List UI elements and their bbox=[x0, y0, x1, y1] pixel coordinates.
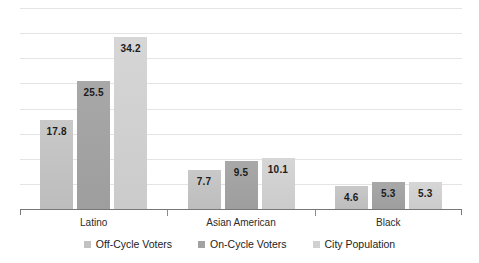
chart-legend: Off-Cycle Voters On-Cycle Voters City Po… bbox=[0, 238, 479, 250]
x-axis-right-cap bbox=[461, 209, 462, 215]
x-axis-left-cap bbox=[20, 209, 21, 215]
bar-value-label: 5.3 bbox=[372, 188, 405, 199]
legend-item-off-cycle-voters[interactable]: Off-Cycle Voters bbox=[84, 238, 172, 250]
plot-area: 17.825.534.27.79.510.14.65.35.3 bbox=[20, 8, 462, 209]
x-axis-tick bbox=[315, 210, 316, 216]
bar-value-label: 4.6 bbox=[335, 192, 368, 203]
legend-label-off-cycle: Off-Cycle Voters bbox=[96, 238, 172, 250]
bar-value-label: 7.7 bbox=[188, 176, 221, 187]
legend-swatch-off-cycle-icon bbox=[84, 241, 91, 248]
x-axis-tick bbox=[167, 210, 168, 216]
bar[interactable] bbox=[114, 37, 147, 209]
bar-group-latino: 17.825.534.2 bbox=[40, 8, 147, 209]
bar-group-black: 4.65.35.3 bbox=[335, 8, 442, 209]
legend-item-on-cycle-voters[interactable]: On-Cycle Voters bbox=[198, 238, 286, 250]
bar-value-label: 34.2 bbox=[114, 43, 147, 54]
bar-chart: 17.825.534.27.79.510.14.65.35.3 LatinoAs… bbox=[0, 0, 479, 263]
legend-label-city-population: City Population bbox=[325, 238, 396, 250]
bar-value-label: 5.3 bbox=[409, 188, 442, 199]
legend-swatch-on-cycle-icon bbox=[198, 241, 205, 248]
bar-value-label: 10.1 bbox=[262, 164, 295, 175]
legend-label-on-cycle: On-Cycle Voters bbox=[210, 238, 286, 250]
bar-value-label: 9.5 bbox=[225, 167, 258, 178]
legend-swatch-city-population-icon bbox=[313, 241, 320, 248]
bar-group-asian-american: 7.79.510.1 bbox=[188, 8, 295, 209]
legend-item-city-population[interactable]: City Population bbox=[313, 238, 396, 250]
category-label-latino: Latino bbox=[20, 217, 167, 228]
category-label-asian-american: Asian American bbox=[167, 217, 314, 228]
bar-value-label: 25.5 bbox=[77, 87, 110, 98]
bar[interactable] bbox=[77, 81, 110, 209]
category-label-black: Black bbox=[315, 217, 462, 228]
bar-value-label: 17.8 bbox=[40, 126, 73, 137]
x-axis-line bbox=[20, 209, 462, 210]
